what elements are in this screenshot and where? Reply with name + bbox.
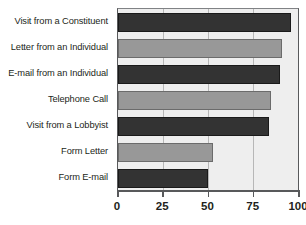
bar-row [118, 87, 298, 113]
bar-row [118, 9, 298, 35]
x-axis-ticks [117, 190, 298, 197]
bar-row [118, 35, 298, 61]
x-tick [117, 190, 119, 197]
bars-layer [118, 9, 298, 191]
bar [118, 169, 208, 188]
bar [118, 143, 213, 162]
x-tick-label: 0 [114, 199, 120, 213]
category-axis: Visit from a ConstituentLetter from an I… [0, 8, 113, 190]
x-tick-label: 50 [201, 199, 214, 213]
x-tick-label: 75 [246, 199, 259, 213]
x-tick [298, 190, 300, 197]
plot-area [117, 8, 299, 191]
x-axis-tick-labels: 0255075100 [117, 199, 298, 217]
category-label: Form Letter [0, 138, 113, 164]
bar [118, 39, 282, 58]
bar [118, 13, 291, 32]
bar-row [118, 61, 298, 87]
bar-chart: Visit from a ConstituentLetter from an I… [0, 0, 306, 225]
category-label: Letter from an Individual [0, 34, 113, 60]
x-tick [208, 190, 210, 197]
category-label: Form E-mail [0, 164, 113, 190]
bar-row [118, 165, 298, 191]
bar-row [118, 113, 298, 139]
bar [118, 65, 280, 84]
bar [118, 91, 271, 110]
bar [118, 117, 269, 136]
category-label: Visit from a Lobbyist [0, 112, 113, 138]
x-tick [253, 190, 255, 197]
x-tick-label: 100 [288, 199, 306, 213]
category-label: E-mail from an Individual [0, 60, 113, 86]
x-tick-label: 25 [156, 199, 169, 213]
category-label: Visit from a Constituent [0, 8, 113, 34]
category-label: Telephone Call [0, 86, 113, 112]
bar-row [118, 139, 298, 165]
x-tick [162, 190, 164, 197]
